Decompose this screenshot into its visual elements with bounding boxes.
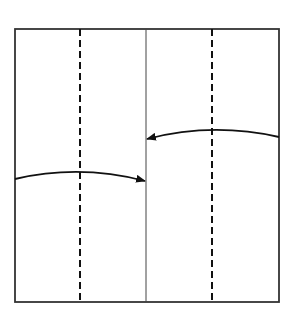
- folding-diagram: [0, 0, 285, 321]
- paper-square: [15, 29, 279, 302]
